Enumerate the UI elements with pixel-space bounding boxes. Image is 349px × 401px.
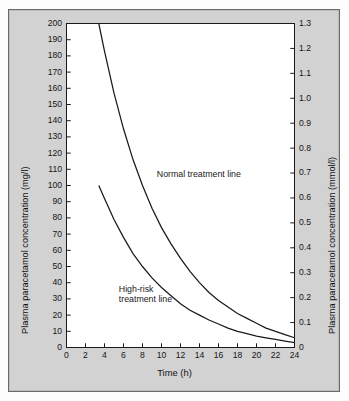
plot-area — [66, 23, 295, 348]
right-tick-label: 0.7 — [299, 168, 311, 177]
left-tick-label: 200 — [36, 19, 62, 28]
left-tick-label: 120 — [36, 149, 62, 158]
high-risk-label-line2: treatment line — [119, 294, 172, 304]
high-risk-treatment-line-label: High-risk treatment line — [119, 284, 172, 304]
right-tick-label: 0.3 — [299, 268, 311, 277]
right-axis-title: Plasma paracetamol concentration (mmol/l… — [327, 156, 337, 333]
left-tick-label: 70 — [36, 230, 62, 239]
right-tick-label: 0.8 — [299, 144, 311, 153]
x-tick-label: 0 — [57, 351, 77, 360]
x-tick-label: 6 — [114, 351, 134, 360]
left-tick-label: 50 — [36, 262, 62, 271]
right-tick-label: 0.9 — [299, 119, 311, 128]
left-tick-label: 100 — [36, 181, 62, 190]
x-tick-label: 2 — [76, 351, 96, 360]
high-risk-label-line1: High-risk — [119, 284, 154, 294]
x-tick-label: 16 — [209, 351, 229, 360]
x-tick-label: 24 — [285, 351, 305, 360]
right-tick-label: 0.1 — [299, 318, 311, 327]
left-tick-label: 140 — [36, 116, 62, 125]
left-tick-label: 190 — [36, 35, 62, 44]
x-tick-label: 10 — [152, 351, 172, 360]
left-tick-label: 110 — [36, 165, 62, 174]
left-tick-label: 160 — [36, 84, 62, 93]
left-tick-label: 130 — [36, 132, 62, 141]
x-tick-label: 18 — [228, 351, 248, 360]
right-tick-label: 1.3 — [299, 19, 311, 28]
x-tick-label: 8 — [133, 351, 153, 360]
left-tick-label: 60 — [36, 246, 62, 255]
right-tick-label: 1.1 — [299, 69, 311, 78]
x-tick-label: 14 — [190, 351, 210, 360]
right-tick-label: 0.2 — [299, 293, 311, 302]
right-tick-label: 1.2 — [299, 44, 311, 53]
x-tick-label: 22 — [266, 351, 286, 360]
left-tick-label: 170 — [36, 68, 62, 77]
left-tick-label: 20 — [36, 311, 62, 320]
figure-root: 0102030405060708090100110120130140150160… — [0, 0, 349, 401]
x-tick-label: 12 — [171, 351, 191, 360]
x-tick-label: 20 — [247, 351, 267, 360]
x-axis-title: Time (h) — [0, 367, 349, 378]
right-tick-label: 0.5 — [299, 218, 311, 227]
left-tick-label: 80 — [36, 213, 62, 222]
left-tick-label: 40 — [36, 278, 62, 287]
left-tick-label: 150 — [36, 100, 62, 109]
normal-treatment-line-label: Normal treatment line — [157, 169, 241, 179]
left-axis-title: Plasma paracetamol concentration (mg/l) — [20, 166, 30, 334]
right-tick-label: 0.6 — [299, 193, 311, 202]
left-tick-label: 90 — [36, 197, 62, 206]
right-tick-label: 1.0 — [299, 94, 311, 103]
left-tick-label: 180 — [36, 51, 62, 60]
x-tick-label: 4 — [95, 351, 115, 360]
left-tick-label: 10 — [36, 327, 62, 336]
right-tick-label: 0.4 — [299, 243, 311, 252]
left-tick-label: 30 — [36, 294, 62, 303]
